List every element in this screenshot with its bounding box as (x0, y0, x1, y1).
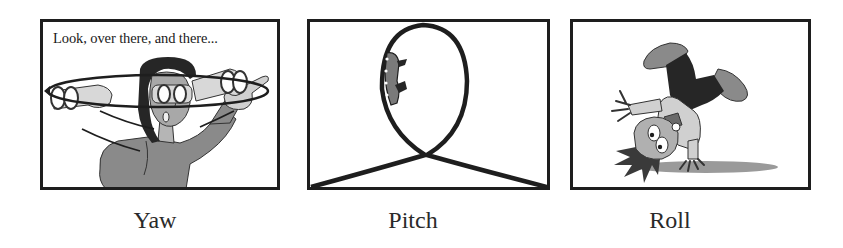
pitch-panel (307, 19, 550, 190)
yaw-panel: Look, over there, and there... (40, 19, 280, 190)
pitch-illustration (307, 19, 550, 190)
roll-panel (570, 19, 811, 190)
caption-yaw: Yaw (95, 206, 215, 234)
coaster-cart-icon (384, 53, 407, 105)
yaw-illustration (40, 19, 280, 190)
roll-illustration (570, 19, 811, 190)
caption-pitch: Pitch (353, 206, 473, 234)
caption-roll: Roll (610, 206, 730, 234)
